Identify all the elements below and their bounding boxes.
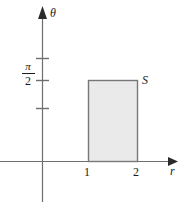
theta-tick-label-pi-over-2: π 2 (18, 61, 38, 87)
figure-canvas: θ r S 1 2 π 2 (0, 0, 185, 202)
theta-axis-arrowhead (38, 6, 47, 19)
figure-svg (0, 0, 185, 202)
region-s-rectangle (89, 81, 138, 162)
pi-denominator: 2 (18, 74, 38, 87)
theta-axis-label: θ (50, 7, 56, 19)
r-tick-label-2: 2 (133, 166, 139, 178)
pi-numerator: π (18, 61, 38, 73)
r-axis-label: r (170, 165, 175, 177)
r-tick-label-1: 1 (84, 166, 90, 178)
region-s-label: S (142, 74, 148, 86)
